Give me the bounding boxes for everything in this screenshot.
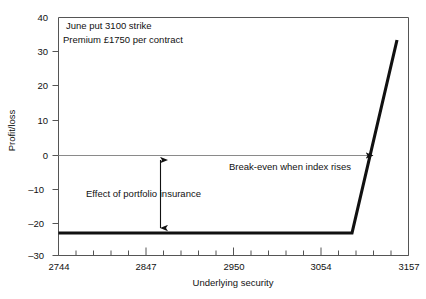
x-tick-label: 2744 xyxy=(29,261,89,272)
y-tick-label: 30 xyxy=(18,46,48,57)
insurance-effect-note: Effect of portfolio insurance xyxy=(86,188,201,199)
chart-figure: 40 30 20 10 0 –10 –20 –30 2744 2847 2950… xyxy=(0,0,426,299)
y-tick-label: 20 xyxy=(18,80,48,91)
y-tick-label: –10 xyxy=(14,184,44,195)
strike-note: June put 3100 strike xyxy=(66,20,152,31)
y-tick-label: 10 xyxy=(18,115,48,126)
y-tick-label: –20 xyxy=(14,218,44,229)
x-tick-label: 3054 xyxy=(291,261,351,272)
x-tick-label: 3157 xyxy=(379,261,426,272)
premium-note: Premium £1750 per contract xyxy=(63,34,183,45)
x-axis-title: Underlying security xyxy=(163,277,303,288)
y-tick-label: 0 xyxy=(18,150,48,161)
y-axis-title: Profit/loss xyxy=(6,96,17,166)
payoff-line xyxy=(59,40,398,233)
y-tick-label: –30 xyxy=(14,250,44,261)
x-tick-label: 2950 xyxy=(204,261,264,272)
y-axis-ticks xyxy=(53,52,59,256)
x-axis-ticks xyxy=(59,248,409,256)
y-tick-label: 40 xyxy=(18,12,48,23)
break-even-note: Break-even when index rises xyxy=(229,161,351,172)
x-tick-label: 2847 xyxy=(116,261,176,272)
